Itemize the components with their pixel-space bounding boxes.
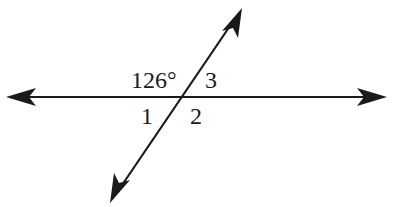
transversal-line [110, 8, 242, 203]
angle-3-label: 3 [205, 67, 217, 93]
given-angle-label: 126° [131, 67, 177, 93]
angle-2-label: 2 [190, 103, 202, 129]
angle-1-label: 1 [141, 103, 153, 129]
intersecting-lines-diagram: 126° 3 1 2 [0, 0, 393, 207]
